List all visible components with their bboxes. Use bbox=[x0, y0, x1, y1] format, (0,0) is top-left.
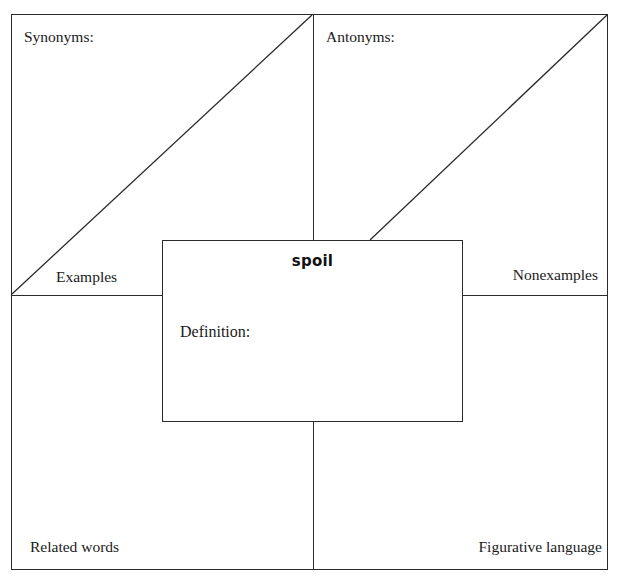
definition-label: Definition: bbox=[180, 323, 250, 341]
quadrant-heading-synonyms: Synonyms: bbox=[24, 28, 94, 46]
quadrant-label-examples: Examples bbox=[56, 268, 117, 286]
quadrant-label-related-words: Related words bbox=[30, 538, 119, 556]
worksheet-page: • • Synonyms: Antonyms: Examples Nonexam… bbox=[0, 0, 620, 584]
center-word-card: spoil Definition: bbox=[162, 240, 463, 422]
quadrant-label-nonexamples: Nonexamples bbox=[513, 266, 598, 284]
vocabulary-word: spoil bbox=[163, 252, 462, 270]
quadrant-heading-antonyms: Antonyms: bbox=[326, 28, 395, 46]
quadrant-label-figurative-language: Figurative language bbox=[478, 538, 602, 556]
